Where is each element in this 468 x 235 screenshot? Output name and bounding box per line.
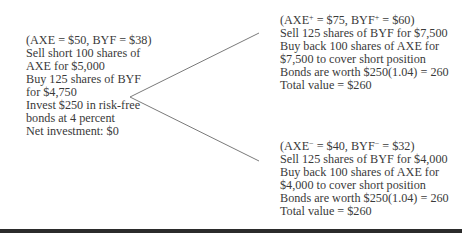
- down-state-line: Total value = $260: [280, 205, 449, 218]
- up-state-line: Total value = $260: [280, 79, 449, 92]
- down-state-block: (AXE− = $40, BYF− = $32) Sell 125 shares…: [280, 140, 449, 218]
- down-branch-line: [130, 97, 259, 161]
- up-state-block: (AXE+ = $75, BYF+ = $60) Sell 125 shares…: [280, 14, 449, 92]
- bottom-rule: [0, 229, 462, 233]
- up-branch-line: [130, 33, 259, 97]
